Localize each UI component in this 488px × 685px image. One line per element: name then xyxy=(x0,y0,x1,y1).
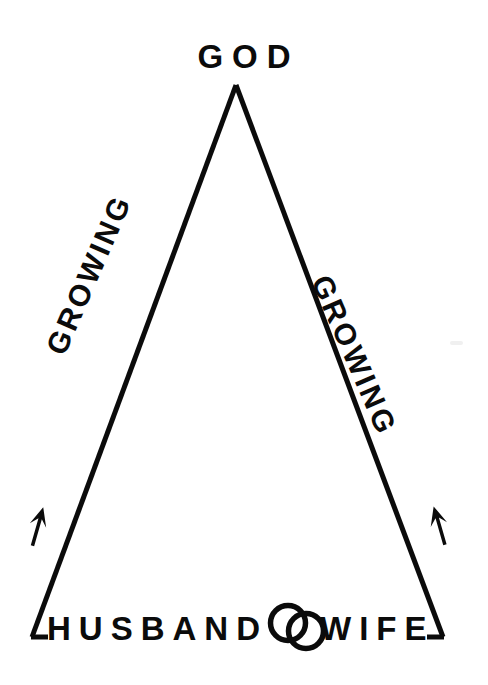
arrow-up-right-icon xyxy=(425,504,452,547)
triangle-left-edge xyxy=(32,85,236,637)
base-label-wife: WIFE xyxy=(320,612,434,645)
scan-artifact xyxy=(450,341,463,345)
base-label-husband: HUSBAND xyxy=(47,612,268,645)
arrow-up-left-icon xyxy=(24,505,51,548)
apex-label-god: GOD xyxy=(0,40,488,73)
wedding-rings-icon xyxy=(271,606,324,649)
